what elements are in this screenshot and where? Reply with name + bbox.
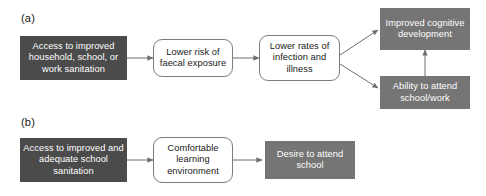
figure-canvas: (a) Access to improved household, school…	[0, 0, 486, 196]
node-access-to-improved-sanitation: Access to improved household, school, or…	[20, 36, 127, 80]
panel-b-label: (b)	[21, 117, 35, 128]
node-label: Access to improved and adequate school s…	[23, 143, 124, 177]
panel-a-label: (a)	[21, 13, 35, 24]
node-access-to-school-sanitation: Access to improved and adequate school s…	[20, 138, 127, 182]
node-desire-to-attend-school: Desire to attend school	[265, 141, 355, 179]
node-label: Desire to attend school	[268, 149, 352, 172]
node-label: Ability to attend school/work	[383, 81, 467, 104]
arrow-a3-to-a4	[340, 30, 378, 55]
node-comfortable-learning-environment: Comfortable learning environment	[153, 137, 233, 183]
node-label: Lower rates of infection and illness	[263, 41, 336, 75]
node-lower-risk-faecal-exposure: Lower risk of faecal exposure	[153, 39, 233, 77]
node-label: Access to improved household, school, or…	[23, 41, 124, 75]
node-label: Lower risk of faecal exposure	[157, 47, 229, 70]
node-label: Comfortable learning environment	[157, 143, 229, 177]
node-lower-rates-infection: Lower rates of infection and illness	[259, 35, 340, 81]
node-improved-cognitive-development: Improved cognitive development	[380, 8, 470, 50]
arrow-a3-to-a5	[340, 64, 378, 88]
node-label: Improved cognitive development	[383, 18, 467, 41]
node-ability-to-attend-school-work: Ability to attend school/work	[380, 76, 470, 109]
